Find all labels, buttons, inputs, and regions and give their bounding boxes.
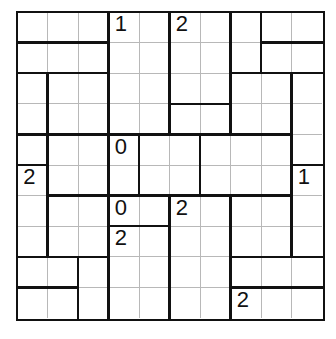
grid-cell[interactable] <box>200 12 231 43</box>
grid-cell[interactable] <box>231 73 262 104</box>
grid-cell[interactable] <box>200 104 231 135</box>
grid-cell[interactable] <box>109 104 140 135</box>
grid-cell[interactable] <box>200 134 231 165</box>
grid-cell[interactable] <box>170 73 201 104</box>
grid-cell[interactable] <box>139 43 170 74</box>
grid-cell[interactable] <box>231 104 262 135</box>
grid-cell[interactable] <box>139 196 170 227</box>
grid-cell[interactable] <box>139 12 170 43</box>
grid-cell[interactable] <box>231 12 262 43</box>
grid-cell[interactable] <box>17 104 48 135</box>
grid-cell[interactable] <box>78 73 109 104</box>
grid-cell[interactable] <box>170 134 201 165</box>
grid-cell[interactable] <box>139 287 170 318</box>
grid-cell[interactable] <box>261 226 292 257</box>
grid-cell[interactable] <box>78 287 109 318</box>
grid-cell[interactable] <box>48 134 79 165</box>
grid-cell[interactable] <box>231 196 262 227</box>
grid-cell[interactable] <box>17 43 48 74</box>
grid-cell[interactable] <box>48 12 79 43</box>
grid-cell[interactable] <box>139 104 170 135</box>
grid-cell[interactable] <box>78 104 109 135</box>
grid-cell[interactable] <box>109 43 140 74</box>
grid-cell[interactable] <box>231 226 262 257</box>
grid-cell[interactable]: 0 <box>109 196 140 227</box>
grid-cell[interactable] <box>261 73 292 104</box>
grid-cell[interactable] <box>78 43 109 74</box>
grid-cell[interactable] <box>17 196 48 227</box>
grid-cell[interactable] <box>48 196 79 227</box>
grid-cell[interactable] <box>48 257 79 288</box>
grid-cell[interactable]: 0 <box>109 134 140 165</box>
grid-cell[interactable] <box>292 104 323 135</box>
grid-cell[interactable] <box>17 134 48 165</box>
grid-cell[interactable] <box>261 12 292 43</box>
grid-cell[interactable] <box>292 196 323 227</box>
grid-cell[interactable] <box>200 257 231 288</box>
grid-cell[interactable] <box>17 226 48 257</box>
grid-cell[interactable] <box>292 134 323 165</box>
grid-cell[interactable] <box>231 165 262 196</box>
grid-cell[interactable] <box>261 196 292 227</box>
grid-cell[interactable] <box>78 134 109 165</box>
grid-cell[interactable] <box>200 287 231 318</box>
grid-cell[interactable] <box>200 226 231 257</box>
grid-cell[interactable] <box>261 104 292 135</box>
grid-cell[interactable]: 2 <box>231 287 262 318</box>
grid-cell[interactable] <box>139 134 170 165</box>
grid-cell[interactable] <box>78 257 109 288</box>
grid-cell[interactable] <box>139 165 170 196</box>
grid-cell[interactable] <box>170 165 201 196</box>
grid-cell[interactable] <box>78 196 109 227</box>
grid-cell[interactable] <box>17 73 48 104</box>
grid-cell[interactable] <box>139 257 170 288</box>
grid-cell[interactable] <box>231 134 262 165</box>
grid-cell[interactable] <box>200 196 231 227</box>
grid-cell[interactable] <box>170 104 201 135</box>
grid-cell[interactable] <box>78 165 109 196</box>
grid-cell[interactable] <box>17 257 48 288</box>
grid-cell[interactable] <box>292 73 323 104</box>
grid-cell[interactable]: 2 <box>17 165 48 196</box>
grid-cell[interactable] <box>17 12 48 43</box>
grid-cell[interactable] <box>48 43 79 74</box>
grid-cell[interactable] <box>292 287 323 318</box>
grid-cell[interactable] <box>292 257 323 288</box>
grid-cell[interactable] <box>109 73 140 104</box>
grid-cell[interactable]: 2 <box>109 226 140 257</box>
grid-cell[interactable] <box>261 287 292 318</box>
grid-cell[interactable] <box>48 104 79 135</box>
grid-cell[interactable] <box>109 287 140 318</box>
grid-cell[interactable] <box>78 226 109 257</box>
grid-cell[interactable] <box>170 257 201 288</box>
grid-cell[interactable] <box>48 165 79 196</box>
grid-cell[interactable] <box>292 226 323 257</box>
grid-cell[interactable] <box>139 73 170 104</box>
grid-cell[interactable]: 2 <box>170 196 201 227</box>
grid-cell[interactable] <box>48 73 79 104</box>
grid-cell[interactable] <box>231 43 262 74</box>
grid-cell[interactable] <box>261 134 292 165</box>
grid-cell[interactable] <box>200 43 231 74</box>
grid-cell[interactable] <box>78 12 109 43</box>
grid-cell[interactable] <box>109 257 140 288</box>
grid-cell[interactable] <box>48 226 79 257</box>
grid-cell[interactable] <box>48 287 79 318</box>
grid-cell[interactable] <box>261 165 292 196</box>
grid-cell[interactable] <box>17 287 48 318</box>
grid-cell[interactable] <box>109 165 140 196</box>
grid-cell[interactable] <box>200 165 231 196</box>
grid-cell[interactable] <box>261 43 292 74</box>
grid-cell[interactable] <box>200 73 231 104</box>
grid-cell[interactable] <box>170 43 201 74</box>
grid-cell[interactable]: 2 <box>170 12 201 43</box>
grid-cell[interactable] <box>170 226 201 257</box>
grid-cell[interactable] <box>170 287 201 318</box>
grid-cell[interactable] <box>261 257 292 288</box>
grid-cell[interactable] <box>231 257 262 288</box>
grid-cell[interactable]: 1 <box>292 165 323 196</box>
grid-cell[interactable] <box>292 43 323 74</box>
grid-cell[interactable]: 1 <box>109 12 140 43</box>
grid-cell[interactable] <box>139 226 170 257</box>
grid-cell[interactable] <box>292 12 323 43</box>
